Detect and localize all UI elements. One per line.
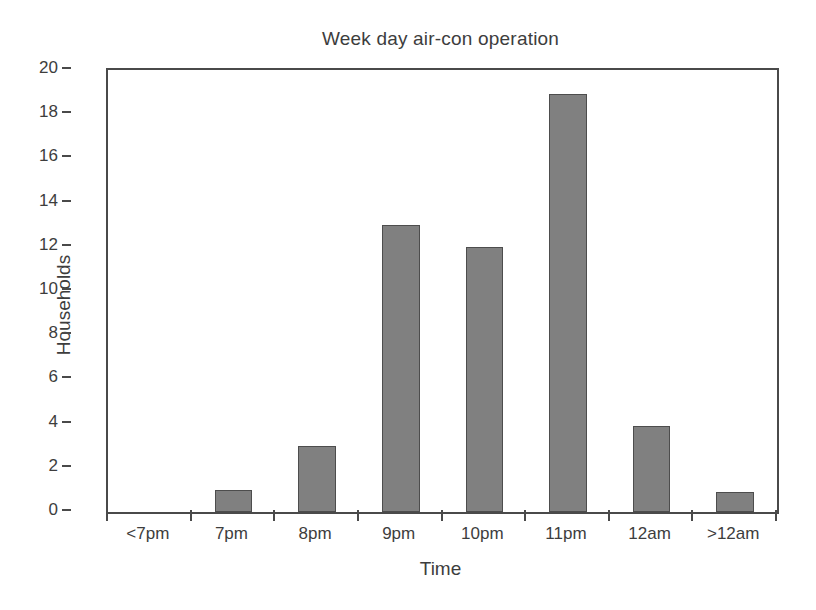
bar-slot <box>610 70 694 512</box>
y-tick-mark <box>62 332 71 334</box>
bar-slot <box>693 70 777 512</box>
x-tick-mark <box>608 510 610 521</box>
y-tick-mark <box>62 376 71 378</box>
y-tick-label: 6 <box>49 367 58 387</box>
x-tick-mark <box>357 510 359 521</box>
bar[interactable] <box>215 490 253 512</box>
x-axis-tick-labels: <7pm7pm8pm9pm10pm11pm12am>12am <box>106 524 775 544</box>
y-tick-mark <box>62 465 71 467</box>
y-tick-label: 20 <box>39 58 58 78</box>
bar[interactable] <box>382 225 420 512</box>
y-tick-label: 0 <box>49 500 58 520</box>
y-tick-label: 8 <box>49 323 58 343</box>
bar-slot <box>108 70 192 512</box>
y-tick-mark <box>62 288 71 290</box>
x-tick-mark <box>106 510 108 521</box>
bar-slot <box>192 70 276 512</box>
x-tick-label: 12am <box>608 524 692 544</box>
y-tick-label: 12 <box>39 235 58 255</box>
x-tick-mark <box>691 510 693 521</box>
x-tick-label: 8pm <box>273 524 357 544</box>
bar[interactable] <box>633 426 671 512</box>
y-tick-label: 2 <box>49 456 58 476</box>
x-tick-label: <7pm <box>106 524 190 544</box>
chart-title: Week day air-con operation <box>106 28 775 50</box>
plot-area <box>106 68 779 514</box>
x-tick-label: >12am <box>691 524 775 544</box>
y-tick-label: 16 <box>39 146 58 166</box>
x-tick-label: 7pm <box>190 524 274 544</box>
bars-layer <box>108 70 777 512</box>
x-tick-mark <box>441 510 443 521</box>
bar[interactable] <box>549 94 587 512</box>
x-tick-label: 11pm <box>524 524 608 544</box>
bar-slot <box>359 70 443 512</box>
bar-chart-figure: Week day air-con operation Households 20… <box>0 0 816 610</box>
y-tick-mark <box>62 421 71 423</box>
y-tick-mark <box>62 111 71 113</box>
y-tick-mark <box>62 67 71 69</box>
y-tick-label: 10 <box>39 279 58 299</box>
bar[interactable] <box>298 446 336 512</box>
x-tick-label: 9pm <box>357 524 441 544</box>
x-axis-title: Time <box>106 558 775 580</box>
bar-slot <box>275 70 359 512</box>
x-tick-mark <box>775 510 777 521</box>
x-tick-mark <box>273 510 275 521</box>
x-axis-tick-marks <box>106 510 775 522</box>
y-tick-mark <box>62 244 71 246</box>
bar[interactable] <box>466 247 504 512</box>
x-tick-mark <box>190 510 192 521</box>
x-tick-mark <box>524 510 526 521</box>
y-tick-label: 18 <box>39 102 58 122</box>
bar-slot <box>443 70 527 512</box>
y-axis: 20181614121086420 <box>0 0 106 610</box>
x-tick-label: 10pm <box>441 524 525 544</box>
y-tick-label: 4 <box>49 412 58 432</box>
y-tick-label: 14 <box>39 191 58 211</box>
y-tick-mark <box>62 155 71 157</box>
bar-slot <box>526 70 610 512</box>
y-tick-mark <box>62 509 71 511</box>
y-tick-mark <box>62 200 71 202</box>
